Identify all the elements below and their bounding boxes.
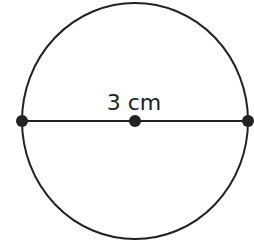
diameter-label: 3 cm: [107, 90, 162, 115]
right-endpoint: [242, 115, 254, 127]
left-endpoint: [16, 115, 28, 127]
center-point: [129, 115, 141, 127]
circle-diagram: 3 cm: [0, 0, 254, 252]
